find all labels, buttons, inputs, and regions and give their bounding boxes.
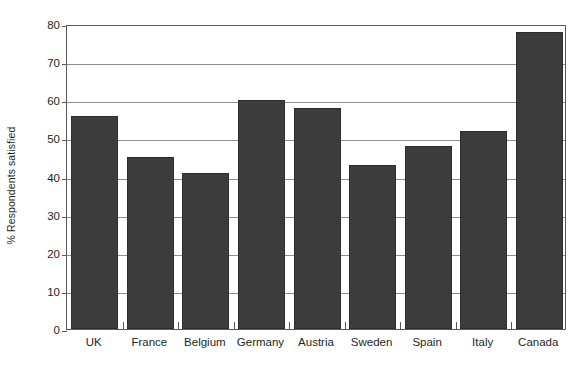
y-axis-title: % Respondents satisfied (0, 0, 22, 371)
y-tick-label: 60 (28, 95, 60, 107)
x-axis-category-labels: UKFranceBelgiumGermanyAustriaSwedenSpain… (66, 336, 566, 354)
plot-area (66, 25, 566, 330)
x-tick-label: Sweden (351, 336, 393, 348)
bar (516, 32, 563, 329)
x-tick-label: Spain (412, 336, 441, 348)
bars-group (67, 26, 565, 329)
y-tick-label: 40 (28, 172, 60, 184)
y-tick-label: 30 (28, 210, 60, 222)
x-tick-label: France (131, 336, 167, 348)
bar (349, 165, 396, 329)
bar (460, 131, 507, 329)
y-tick-label: 50 (28, 133, 60, 145)
bar (71, 116, 118, 330)
y-tick-label: 20 (28, 248, 60, 260)
bar (238, 100, 285, 329)
y-tick-label: 0 (28, 324, 60, 336)
x-tick-label: UK (86, 336, 102, 348)
y-tick-mark (62, 331, 67, 332)
x-tick-label: Belgium (184, 336, 226, 348)
bar (405, 146, 452, 329)
x-tick-label: Canada (518, 336, 558, 348)
x-tick-label: Germany (237, 336, 284, 348)
x-tick-label: Austria (298, 336, 334, 348)
bar (294, 108, 341, 329)
bar-chart-figure: % Respondents satisfied 0102030405060708… (0, 0, 584, 371)
y-axis-tick-labels: 01020304050607080 (28, 0, 60, 371)
y-tick-label: 70 (28, 57, 60, 69)
x-tick-label: Italy (472, 336, 493, 348)
bar (127, 157, 174, 329)
y-tick-label: 10 (28, 286, 60, 298)
bar (182, 173, 229, 329)
y-tick-label: 80 (28, 19, 60, 31)
